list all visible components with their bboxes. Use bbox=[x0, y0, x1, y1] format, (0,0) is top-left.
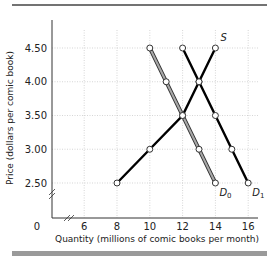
x-tick-0: 0 bbox=[34, 221, 40, 232]
point-s bbox=[147, 146, 153, 152]
point-d1 bbox=[196, 79, 202, 85]
x-tick-12: 12 bbox=[176, 221, 189, 232]
y-tick-4.00: 4.00 bbox=[25, 76, 47, 87]
y-tick-2.50: 2.50 bbox=[25, 178, 47, 189]
bottom-bar bbox=[12, 251, 267, 256]
x-tick-6: 6 bbox=[81, 221, 87, 232]
label-s: S bbox=[220, 32, 227, 43]
x-tick-10: 10 bbox=[143, 221, 156, 232]
point-d0 bbox=[163, 79, 169, 85]
point-d0 bbox=[212, 180, 218, 186]
curve-s bbox=[117, 48, 215, 183]
x-axis-label: Quantity (millions of comic books per mo… bbox=[55, 234, 259, 244]
x-tick-16: 16 bbox=[242, 221, 255, 232]
point-s bbox=[212, 45, 218, 51]
point-d1 bbox=[180, 45, 186, 51]
tick-labels: 068101214162.503.003.504.004.50 bbox=[25, 43, 255, 233]
supply-demand-chart: 068101214162.503.003.504.004.50 SD0D1 Pr… bbox=[0, 0, 277, 258]
point-d1 bbox=[245, 180, 251, 186]
point-d0 bbox=[180, 113, 186, 119]
y-axis-label: Price (dollars per comic book) bbox=[5, 51, 15, 185]
x-tick-14: 14 bbox=[209, 221, 222, 232]
y-tick-4.50: 4.50 bbox=[25, 43, 47, 54]
label-d0: D0 bbox=[219, 187, 231, 200]
point-d1 bbox=[229, 146, 235, 152]
x-tick-8: 8 bbox=[114, 221, 120, 232]
point-d0 bbox=[147, 45, 153, 51]
point-s bbox=[114, 180, 120, 186]
point-d1 bbox=[212, 113, 218, 119]
y-tick-3.00: 3.00 bbox=[25, 144, 47, 155]
point-d0 bbox=[196, 146, 202, 152]
label-d1: D1 bbox=[252, 187, 264, 200]
curve-labels: SD0D1 bbox=[219, 32, 264, 200]
y-tick-3.50: 3.50 bbox=[25, 110, 47, 121]
